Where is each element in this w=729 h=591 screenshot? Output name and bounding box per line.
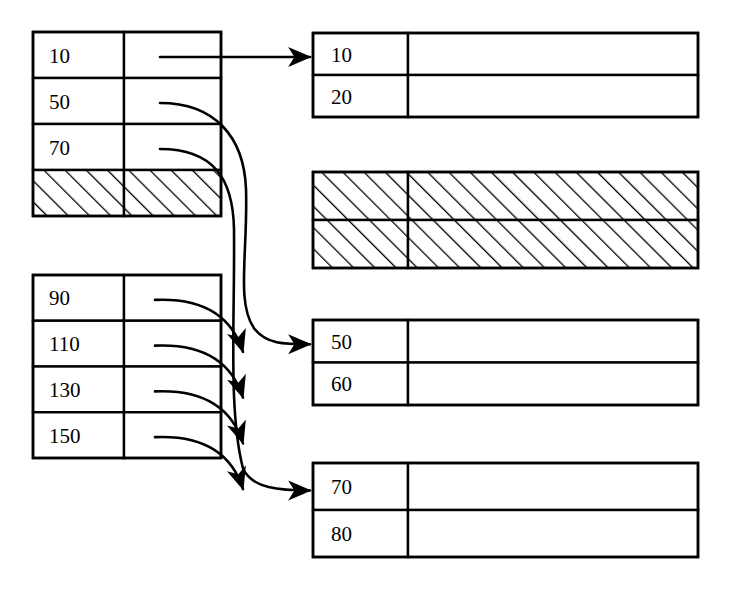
- key-label: 10: [49, 44, 70, 68]
- hatched-data-cell: [408, 220, 698, 268]
- key-cell: [313, 510, 408, 557]
- table-row: 110: [33, 321, 221, 367]
- pointer-cell: [124, 124, 221, 170]
- pointer-cell: [124, 78, 221, 124]
- key-label: 90: [49, 286, 70, 310]
- key-cell: [33, 78, 124, 124]
- data-cell: [408, 33, 698, 75]
- pointer-cell: [124, 321, 221, 367]
- table-row: 150: [33, 412, 221, 458]
- diagram-svg: 10507090110130150 102050607080: [0, 0, 729, 591]
- data-block-hatched: [313, 172, 698, 268]
- pointer-cell: [124, 412, 221, 458]
- hatched-key-cell: [313, 220, 408, 268]
- data-cell: [408, 363, 698, 406]
- key-cell: [33, 275, 124, 321]
- table-row: 130: [33, 367, 221, 413]
- data-cell: [408, 463, 698, 510]
- hatched-key-cell: [313, 172, 408, 220]
- data-cell: [408, 75, 698, 117]
- key-label: 110: [49, 332, 80, 356]
- key-cell: [313, 33, 408, 75]
- block-key-label: 50: [331, 330, 352, 354]
- data-blocks-layer: 102050607080: [313, 33, 698, 557]
- key-label: 70: [49, 136, 70, 160]
- block-key-label: 10: [331, 43, 352, 67]
- data-block-70: 7080: [313, 463, 698, 557]
- hatched-data-cell: [408, 172, 698, 220]
- pointer-cell: [124, 275, 221, 321]
- key-cell: [33, 124, 124, 170]
- key-label: 50: [49, 90, 70, 114]
- pointer-cell: [124, 32, 221, 78]
- data-block-10: 1020: [313, 33, 698, 117]
- block-key-label: 20: [331, 85, 352, 109]
- block-key-label: 70: [331, 475, 352, 499]
- key-cell: [313, 320, 408, 363]
- data-cell: [408, 510, 698, 557]
- key-label: 150: [49, 424, 81, 448]
- table-row: 90: [33, 275, 221, 321]
- block-key-label: 80: [331, 522, 352, 546]
- hatched-pointer-cell: [124, 170, 221, 216]
- table-row: 10: [33, 32, 221, 78]
- key-cell: [313, 75, 408, 117]
- block-key-label: 60: [331, 372, 352, 396]
- key-cell: [33, 32, 124, 78]
- key-cell: [313, 463, 408, 510]
- table-row: 70: [33, 124, 221, 170]
- key-cell: [313, 363, 408, 406]
- table-row: [33, 170, 221, 216]
- data-cell: [408, 320, 698, 363]
- data-block-50: 5060: [313, 320, 698, 405]
- upper-index-table: 105070: [33, 32, 221, 216]
- hatched-key-cell: [33, 170, 124, 216]
- pointer-cell: [124, 367, 221, 413]
- table-row: 50: [33, 78, 221, 124]
- diagram-canvas: 10507090110130150 102050607080: [0, 0, 729, 591]
- key-label: 130: [49, 378, 81, 402]
